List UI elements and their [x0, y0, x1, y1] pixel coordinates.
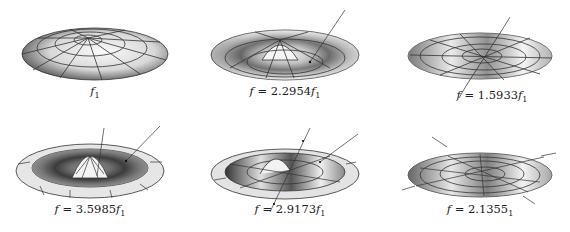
- mode-panel-3: f = 1.5933f1: [380, 0, 570, 116]
- caption-value: 1.5933: [478, 88, 518, 102]
- caption-subscript: 1: [120, 209, 125, 218]
- caption-value: 3.5985: [76, 202, 116, 216]
- mode-caption-1: f1: [90, 84, 99, 100]
- caption-subscript: 1: [522, 95, 527, 104]
- mode-caption-4: f = 3.5985f1: [55, 202, 126, 218]
- mode-caption-6: f = 2.13551: [447, 202, 514, 218]
- mode-caption-2: ff = = 2.2954f1: [250, 84, 321, 100]
- mode-panel-6: f = 2.13551: [380, 116, 570, 232]
- caption-subscript: 1: [320, 209, 325, 218]
- mode-caption-3: f = 1.5933f1: [457, 88, 528, 104]
- mode-caption-5: f = 2.9173f1: [255, 202, 326, 218]
- caption-subscript: 1: [95, 91, 100, 100]
- mode-panel-5: f = 2.9173f1: [190, 116, 380, 232]
- mode-panel-4: f = 3.5985f1: [0, 116, 190, 232]
- caption-value: 2.1355: [468, 202, 508, 216]
- mode-panel-1: f1: [0, 0, 190, 116]
- caption-value: 2.2954: [271, 84, 311, 98]
- caption-value: 2.9173: [276, 202, 316, 216]
- caption-subscript: 1: [508, 209, 513, 218]
- mode-panel-2: ff = = 2.2954f1: [190, 0, 380, 116]
- caption-variable-f: f: [250, 84, 254, 98]
- caption-subscript: 1: [315, 91, 320, 100]
